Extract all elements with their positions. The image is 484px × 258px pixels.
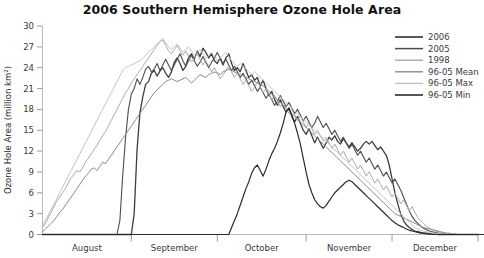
y-tick-label: 9 [29, 167, 34, 177]
x-axis-month-ticks [131, 235, 478, 242]
x-month-label: August [72, 243, 102, 253]
x-month-label: October [245, 243, 280, 253]
y-axis-ticks [37, 26, 43, 235]
legend-label: 1998 [428, 55, 450, 65]
series-line [43, 40, 484, 235]
x-month-label: September [151, 243, 198, 253]
y-tick-label: 12 [23, 146, 34, 156]
ozone-hole-area-chart: 2006 Southern Hemisphere Ozone Hole Area… [0, 0, 484, 258]
x-month-label: November [327, 243, 372, 253]
y-tick-label: 0 [29, 230, 34, 240]
y-tick-label: 30 [23, 21, 34, 31]
x-month-label: December [413, 243, 458, 253]
series-line [43, 48, 479, 234]
y-axis-tick-labels: 036912151821242730 [23, 21, 34, 240]
y-tick-label: 24 [23, 63, 34, 73]
series-line [43, 39, 481, 235]
legend-label: 2005 [428, 44, 450, 54]
series-lines [43, 39, 484, 235]
y-tick-label: 3 [29, 209, 34, 219]
series-line [43, 108, 484, 234]
y-axis-title: Ozone Hole Area (million km²) [3, 66, 13, 194]
legend-label: 96-05 Min [428, 90, 470, 100]
legend-label: 96-05 Mean [428, 67, 479, 77]
chart-canvas: 036912151821242730 Ozone Hole Area (mill… [0, 0, 484, 258]
y-tick-label: 18 [23, 104, 34, 114]
y-tick-label: 21 [23, 84, 34, 94]
x-axis-month-labels: AugustSeptemberOctoberNovemberDecember [72, 243, 458, 253]
chart-legend: 20062005199896-05 Mean96-05 Max96-05 Min [395, 32, 479, 100]
y-tick-label: 27 [23, 42, 34, 52]
legend-label: 2006 [428, 32, 450, 42]
y-tick-label: 15 [23, 125, 34, 135]
y-tick-label: 6 [29, 188, 34, 198]
legend-label: 96-05 Max [428, 78, 473, 88]
